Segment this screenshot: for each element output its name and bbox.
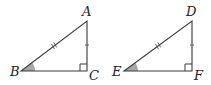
right-angle-f-marker xyxy=(185,64,192,71)
vertex-label-f: F xyxy=(193,68,204,83)
vertex-label-d: D xyxy=(185,4,197,19)
triangle-def-outline xyxy=(124,21,192,71)
triangle-abc: A B C xyxy=(9,4,99,83)
vertex-label-e: E xyxy=(111,64,122,79)
congruent-triangles-diagram: A B C D E F xyxy=(0,0,211,85)
triangle-def: D E F xyxy=(111,4,204,83)
vertex-label-a: A xyxy=(81,4,91,19)
vertex-label-c: C xyxy=(89,68,99,83)
triangle-abc-outline xyxy=(21,21,87,71)
right-angle-c-marker xyxy=(80,64,87,71)
vertex-label-b: B xyxy=(9,64,20,79)
